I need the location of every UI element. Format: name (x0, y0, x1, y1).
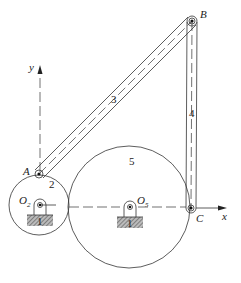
label-link-2: 2 (49, 178, 55, 190)
label-c: C (196, 212, 204, 224)
label-a: A (22, 165, 30, 177)
label-link-1-left: 1 (37, 215, 43, 227)
label-link-1-right: 1 (127, 217, 133, 229)
label-y-axis: y (28, 61, 34, 73)
y-axis-arrow-icon (38, 65, 43, 74)
label-o2: O2 (19, 194, 31, 209)
label-x-axis: x (221, 210, 227, 222)
label-link-3: 3 (111, 93, 117, 105)
label-link-5: 5 (129, 155, 135, 167)
pin-joint-a (35, 170, 43, 178)
mechanism-diagram: A B C O2 O5 1 1 2 3 4 5 x y (0, 0, 241, 283)
label-b: B (200, 8, 207, 20)
label-link-4: 4 (189, 107, 195, 119)
